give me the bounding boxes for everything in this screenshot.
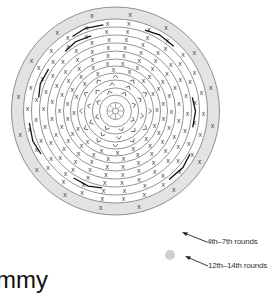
single-crochet-x-icon: x [106,20,110,27]
single-crochet-x-icon: x [50,47,54,54]
single-crochet-x-icon: x [165,70,169,77]
single-crochet-x-icon: x [26,105,30,112]
single-crochet-x-icon: x [61,58,65,65]
single-crochet-x-icon: x [176,157,180,164]
single-crochet-x-icon: x [35,166,39,173]
single-crochet-x-icon: x [112,66,116,73]
single-crochet-x-icon: x [153,168,157,175]
single-crochet-x-icon: x [177,117,181,124]
single-crochet-x-icon: x [107,155,111,162]
single-crochet-x-icon: x [121,163,125,170]
single-crochet-x-icon: x [50,98,54,105]
single-crochet-x-icon: x [211,122,215,129]
single-crochet-x-icon: x [135,64,139,71]
single-crochet-x-icon: x [19,131,23,138]
chain-v-icon [100,132,106,137]
single-crochet-x-icon: x [76,125,80,132]
chain-v-icon [109,82,114,86]
round-ring [113,108,119,114]
single-crochet-x-icon: x [83,80,87,87]
single-crochet-x-icon: x [39,137,43,144]
single-crochet-x-icon: x [106,52,110,59]
single-crochet-x-icon: x [123,187,127,194]
single-crochet-x-icon: x [71,130,75,137]
chain-v-icon [138,97,143,103]
single-crochet-x-icon: x [193,49,197,56]
single-crochet-x-icon: x [128,11,132,18]
chain-v-icon [121,91,127,96]
single-crochet-x-icon: x [37,64,41,71]
chain-v-icon [119,127,125,131]
single-crochet-x-icon: x [80,189,84,196]
single-crochet-x-icon: x [136,151,140,158]
single-crochet-x-icon: x [141,41,145,48]
chain-v-icon [83,125,88,131]
single-crochet-x-icon: x [62,178,66,185]
single-crochet-x-icon: x [92,151,96,158]
single-crochet-x-icon: x [106,60,110,67]
chain-v-icon [130,138,136,143]
single-crochet-x-icon: x [66,137,70,144]
single-crochet-x-icon: x [86,174,90,181]
single-crochet-x-icon: x [170,108,174,115]
single-crochet-x-icon: x [143,191,147,198]
legend-label-4th-7th: 4th–7th rounds [207,237,258,246]
single-crochet-x-icon: x [173,84,177,91]
single-crochet-x-icon: x [154,57,158,64]
single-crochet-x-icon: x [137,159,141,166]
single-crochet-x-icon: x [123,44,127,51]
single-crochet-x-icon: x [77,150,81,157]
single-crochet-x-icon: x [151,65,155,72]
single-crochet-x-icon: x [29,84,33,91]
single-crochet-x-icon: x [104,171,108,178]
single-crochet-x-icon: x [178,60,182,67]
single-crochet-x-icon: x [35,96,39,103]
legend-arrows [165,232,208,266]
single-crochet-x-icon: x [162,115,166,122]
single-crochet-x-icon: x [66,34,70,41]
single-crochet-x-icon: x [186,110,190,117]
single-crochet-x-icon: x [181,51,185,58]
single-crochet-x-icon: x [67,77,71,84]
center-spoke [109,105,113,109]
single-crochet-x-icon: x [44,88,48,95]
single-crochet-x-icon: x [161,138,165,145]
single-crochet-x-icon: x [161,172,165,179]
round-ring [32,27,200,195]
single-crochet-x-icon: x [60,91,64,98]
chain-v-icon [140,113,144,118]
single-crochet-x-icon: x [153,122,157,129]
single-crochet-x-icon: x [164,147,168,154]
chain-v-icon [87,103,91,108]
single-crochet-x-icon: x [100,147,104,154]
single-crochet-x-icon: x [137,203,141,210]
chain-v-icon [94,89,100,95]
shaded-band [18,13,214,209]
round-ring [100,95,132,127]
single-crochet-x-icon: x [72,109,76,116]
single-crochet-x-icon: x [107,36,111,43]
single-crochet-x-icon: x [64,68,68,75]
single-crochet-x-icon: x [105,28,109,35]
single-crochet-x-icon: x [156,49,160,56]
chain-v-icon [113,75,118,78]
single-crochet-x-icon: x [188,78,192,85]
single-crochet-x-icon: x [202,110,206,117]
single-crochet-x-icon: x [34,116,38,123]
single-crochet-x-icon: x [103,179,107,186]
single-crochet-x-icon: x [49,139,53,146]
chain-v-icon [130,79,136,84]
single-crochet-x-icon: x [157,129,161,136]
single-crochet-x-icon: x [122,195,126,202]
single-crochet-x-icon: x [172,133,176,140]
single-crochet-x-icon: x [199,131,203,138]
single-crochet-x-icon: x [55,82,59,89]
round-ring [48,43,184,179]
single-crochet-x-icon: x [200,89,204,96]
single-crochet-x-icon: x [101,195,105,202]
chain-v-icon [131,128,137,134]
single-crochet-x-icon: x [187,140,191,147]
single-crochet-x-icon: x [209,84,213,91]
chain-v-icon [107,90,113,94]
chain-v-icon [83,91,88,97]
